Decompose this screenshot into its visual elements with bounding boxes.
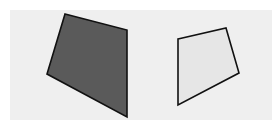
- diagram-canvas: [0, 0, 279, 130]
